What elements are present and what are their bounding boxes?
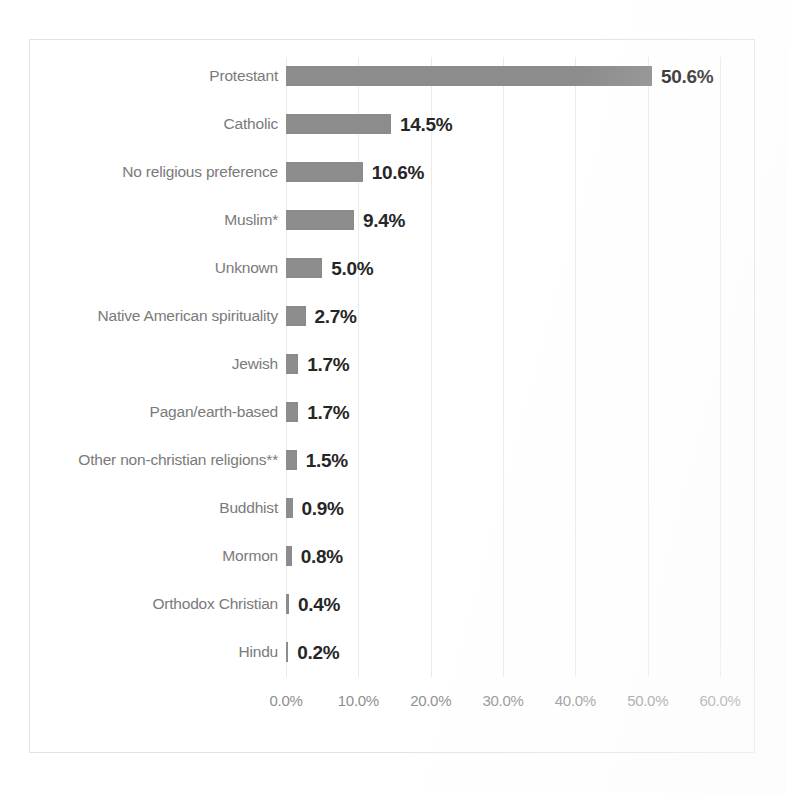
bar-with-value: 2.7% — [286, 292, 357, 340]
bar-value-label: 0.4% — [298, 595, 340, 614]
x-axis-tick-label: 50.0% — [627, 692, 668, 709]
bar-with-value: 0.4% — [286, 580, 340, 628]
bar[interactable] — [286, 114, 391, 134]
bar-with-value: 1.7% — [286, 388, 349, 436]
bar-row[interactable]: Protestant50.6% — [30, 52, 756, 100]
bar-with-value: 10.6% — [286, 148, 424, 196]
bar[interactable] — [286, 642, 288, 662]
bar-row[interactable]: Mormon0.8% — [30, 532, 756, 580]
bar-row[interactable]: Pagan/earth-based1.7% — [30, 388, 756, 436]
category-label: Jewish — [30, 356, 278, 372]
bar-value-label: 0.8% — [301, 547, 343, 566]
bar-with-value: 5.0% — [286, 244, 373, 292]
bar-value-label: 9.4% — [363, 211, 405, 230]
bar-with-value: 14.5% — [286, 100, 452, 148]
bar-row[interactable]: Muslim*9.4% — [30, 196, 756, 244]
x-axis-tick-label: 60.0% — [699, 692, 740, 709]
category-label: Pagan/earth-based — [30, 404, 278, 420]
x-axis-tick-label: 0.0% — [270, 692, 303, 709]
bar-value-label: 5.0% — [331, 259, 373, 278]
bar-row[interactable]: Other non-christian religions**1.5% — [30, 436, 756, 484]
bar-with-value: 50.6% — [286, 52, 713, 100]
bar-value-label: 1.5% — [306, 451, 348, 470]
category-label: Native American spirituality — [30, 308, 278, 324]
bar-row[interactable]: Native American spirituality2.7% — [30, 292, 756, 340]
category-label: Mormon — [30, 548, 278, 564]
bar[interactable] — [286, 594, 289, 614]
bar-row-list: Protestant50.6%Catholic14.5%No religious… — [30, 52, 756, 677]
bar[interactable] — [286, 450, 297, 470]
category-label: Protestant — [30, 68, 278, 84]
bar-with-value: 0.2% — [286, 628, 339, 676]
bar-row[interactable]: Orthodox Christian0.4% — [30, 580, 756, 628]
bar-value-label: 50.6% — [661, 67, 713, 86]
bar-row[interactable]: No religious preference10.6% — [30, 148, 756, 196]
bar[interactable] — [286, 306, 306, 326]
bar[interactable] — [286, 66, 652, 86]
bar[interactable] — [286, 354, 298, 374]
category-label: Unknown — [30, 260, 278, 276]
bar-row[interactable]: Hindu0.2% — [30, 628, 756, 676]
x-axis: 0.0%10.0%20.0%30.0%40.0%50.0%60.0% — [286, 692, 786, 722]
bar[interactable] — [286, 210, 354, 230]
x-axis-tick-label: 40.0% — [555, 692, 596, 709]
bar[interactable] — [286, 546, 292, 566]
bar[interactable] — [286, 402, 298, 422]
category-label: Other non-christian religions** — [30, 452, 278, 468]
x-axis-tick-label: 20.0% — [410, 692, 451, 709]
bar[interactable] — [286, 258, 322, 278]
bar-value-label: 0.2% — [297, 643, 339, 662]
category-label: No religious preference — [30, 164, 278, 180]
category-label: Hindu — [30, 644, 278, 660]
bar-value-label: 0.9% — [302, 499, 344, 518]
category-label: Catholic — [30, 116, 278, 132]
x-axis-tick-label: 30.0% — [482, 692, 523, 709]
bar-value-label: 1.7% — [307, 355, 349, 374]
bar[interactable] — [286, 162, 363, 182]
bar-with-value: 1.7% — [286, 340, 349, 388]
x-axis-tick-label: 10.0% — [338, 692, 379, 709]
bar-with-value: 9.4% — [286, 196, 405, 244]
bar-with-value: 0.9% — [286, 484, 344, 532]
category-label: Orthodox Christian — [30, 596, 278, 612]
bar-value-label: 1.7% — [307, 403, 349, 422]
bar-value-label: 10.6% — [372, 163, 424, 182]
bar-with-value: 1.5% — [286, 436, 348, 484]
bar-row[interactable]: Unknown5.0% — [30, 244, 756, 292]
bar-with-value: 0.8% — [286, 532, 343, 580]
bar-row[interactable]: Buddhist0.9% — [30, 484, 756, 532]
bar[interactable] — [286, 498, 293, 518]
bar-row[interactable]: Jewish1.7% — [30, 340, 756, 388]
bar-value-label: 14.5% — [400, 115, 452, 134]
chart-frame: Protestant50.6%Catholic14.5%No religious… — [29, 39, 755, 753]
category-label: Muslim* — [30, 212, 278, 228]
bar-row[interactable]: Catholic14.5% — [30, 100, 756, 148]
bar-value-label: 2.7% — [315, 307, 357, 326]
category-label: Buddhist — [30, 500, 278, 516]
